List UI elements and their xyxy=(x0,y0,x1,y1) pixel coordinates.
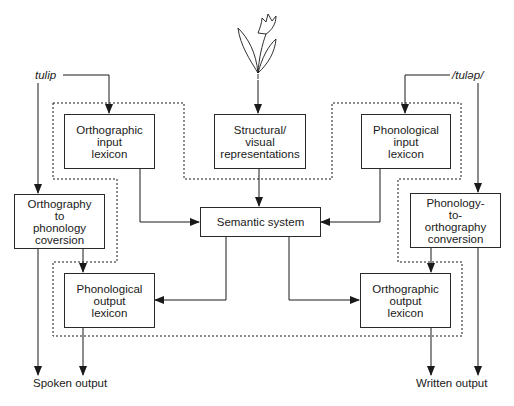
orthography-to-phonology-box: Orthography to phonology coversion xyxy=(14,194,105,249)
phonological-input-lexicon-box: Phonological input lexicon xyxy=(361,114,451,169)
box-line: lexicon xyxy=(76,148,142,160)
phonology-to-orthography-box: Phonology- to- orthography conversion xyxy=(410,193,501,248)
box-line: Orthography xyxy=(28,198,92,210)
box-line: Structural/ xyxy=(220,124,299,136)
box-line: output xyxy=(77,295,143,307)
spoken-output-label: Spoken output xyxy=(33,377,107,389)
box-line: lexicon xyxy=(372,307,438,319)
box-line: visual xyxy=(220,136,299,148)
box-line: Phonological xyxy=(77,283,143,295)
box-line: output xyxy=(372,295,438,307)
box-line: coversion xyxy=(28,234,92,246)
semantic-system-box: Semantic system xyxy=(200,207,321,237)
box-line: Semantic system xyxy=(217,216,305,228)
box-line: lexicon xyxy=(77,307,143,319)
box-line: phonology xyxy=(28,222,92,234)
written-output-label: Written output xyxy=(416,377,487,389)
box-line: representations xyxy=(220,148,299,160)
box-line: to xyxy=(28,210,92,222)
box-line: to- xyxy=(425,209,486,221)
written-word-input-label: tulip xyxy=(35,69,56,81)
box-line: Orthographic xyxy=(372,283,438,295)
orthographic-output-lexicon-box: Orthographic output lexicon xyxy=(360,273,451,328)
box-line: lexicon xyxy=(373,148,439,160)
box-line: Phonological xyxy=(373,124,439,136)
phonological-output-lexicon-box: Phonological output lexicon xyxy=(64,273,155,328)
structural-visual-box: Structural/ visual representations xyxy=(214,114,306,169)
box-line: conversion xyxy=(425,233,486,245)
box-line: input xyxy=(373,136,439,148)
box-line: input xyxy=(76,136,142,148)
orthographic-input-lexicon-box: Orthographic input lexicon xyxy=(64,114,155,169)
tulip-icon xyxy=(238,14,276,79)
box-line: orthography xyxy=(425,221,486,233)
box-line: Phonology- xyxy=(425,197,486,209)
box-line: Orthographic xyxy=(76,124,142,136)
spoken-word-input-label: /tuləp/ xyxy=(452,69,483,81)
